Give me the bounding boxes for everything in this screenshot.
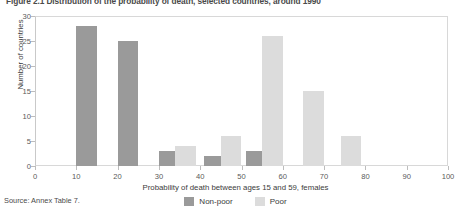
legend-item-poor[interactable]: Poor <box>255 197 287 206</box>
x-axis-title: Probability of death between ages 15 and… <box>0 183 471 192</box>
legend-item-nonpoor[interactable]: Non-poor <box>184 197 232 206</box>
x-tick-label-100: 100 <box>442 172 455 181</box>
legend-label-poor: Poor <box>270 197 287 206</box>
bar-poor-55 <box>262 36 283 166</box>
x-tick-label-50: 50 <box>237 172 245 181</box>
x-tick-mark-50 <box>242 166 243 170</box>
legend-label-nonpoor: Non-poor <box>199 197 232 206</box>
bar-nonpoor-51 <box>246 151 263 166</box>
x-tick-mark-70 <box>324 166 325 170</box>
x-tick-mark-20 <box>118 166 119 170</box>
legend-swatch-nonpoor-icon <box>184 197 194 206</box>
bar-poor-65 <box>303 91 324 166</box>
bar-nonpoor-20 <box>118 41 139 166</box>
legend-swatch-poor-icon <box>255 197 265 206</box>
figure-container: Figure 2.1 Distribution of the probabili… <box>0 0 471 212</box>
x-tick-mark-90 <box>407 166 408 170</box>
x-tick-label-80: 80 <box>361 172 369 181</box>
x-tick-mark-100 <box>448 166 449 170</box>
bar-nonpoor-10 <box>76 26 97 166</box>
source-note: Source: Annex Table 7. <box>4 196 80 205</box>
bar-poor-34 <box>175 146 196 166</box>
bar-nonpoor-30 <box>159 151 176 166</box>
x-tick-mark-30 <box>159 166 160 170</box>
x-tick-label-70: 70 <box>320 172 328 181</box>
x-tick-label-60: 60 <box>279 172 287 181</box>
bars-layer <box>0 0 471 166</box>
x-axis: Probability of death between ages 15 and… <box>0 166 471 190</box>
x-tick-mark-10 <box>76 166 77 170</box>
x-tick-label-10: 10 <box>72 172 80 181</box>
x-tick-mark-80 <box>365 166 366 170</box>
x-tick-label-20: 20 <box>113 172 121 181</box>
bar-poor-45 <box>221 136 242 166</box>
bar-nonpoor-41 <box>204 156 221 166</box>
bar-poor-74 <box>341 136 362 166</box>
x-tick-mark-40 <box>200 166 201 170</box>
x-tick-mark-0 <box>35 166 36 170</box>
x-tick-label-30: 30 <box>155 172 163 181</box>
x-tick-mark-60 <box>283 166 284 170</box>
x-tick-label-90: 90 <box>402 172 410 181</box>
x-tick-label-40: 40 <box>196 172 204 181</box>
x-tick-label-0: 0 <box>33 172 37 181</box>
